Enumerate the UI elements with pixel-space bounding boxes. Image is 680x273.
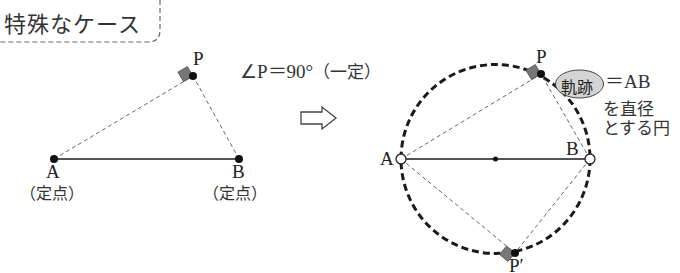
label-b-right: B <box>566 138 579 160</box>
point-p-right-dot <box>537 70 545 78</box>
locus-line2: を直径 <box>603 100 654 118</box>
segment-ap <box>54 76 193 159</box>
label-p-prime: P′ <box>509 255 524 273</box>
locus-badge-label: 軌跡 <box>561 74 593 98</box>
label-a-right: A <box>380 148 394 170</box>
locus-equals: ＝AB <box>605 73 650 91</box>
locus-line3: とする円 <box>603 119 670 137</box>
angle-constant: （一定） <box>313 62 381 82</box>
diagram-canvas <box>0 0 680 273</box>
label-b-fixed: （定点） <box>203 180 267 204</box>
angle-value: ∠P＝90° <box>240 61 313 82</box>
section-title: 特殊なケース <box>4 6 141 38</box>
segment-ap-right <box>401 74 541 159</box>
label-p-right: P <box>536 46 547 68</box>
point-a-open-dot <box>396 154 406 164</box>
point-p-dot <box>189 72 197 80</box>
arrow-icon <box>301 107 336 129</box>
label-p: P <box>193 48 204 70</box>
segment-ap-prime <box>401 159 515 253</box>
label-a-fixed: （定点） <box>20 180 84 204</box>
center-dot <box>493 157 498 162</box>
locus-equals-text: ＝AB <box>605 71 650 92</box>
segment-bp <box>193 76 239 159</box>
angle-condition: ∠P＝90°（一定） <box>240 56 381 83</box>
point-b-open-dot <box>585 154 595 164</box>
